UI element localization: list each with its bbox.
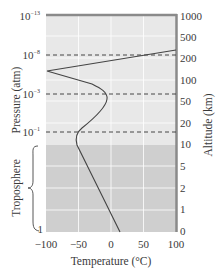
- svg-text:500: 500: [180, 31, 197, 43]
- svg-text:0: 0: [180, 225, 186, 237]
- pressure-label-1e-1: 10−1: [23, 126, 40, 138]
- svg-text:10: 10: [180, 138, 192, 150]
- svg-text:100: 100: [168, 238, 185, 250]
- x-axis-title: Temperature (°C): [71, 255, 152, 268]
- right-axis-title: Altitude (km): [202, 93, 215, 156]
- pressure-label-1e-3: 10−3: [23, 88, 40, 100]
- svg-text:1000: 1000: [180, 10, 203, 22]
- atmosphere-temperature-chart: 10−13 10−8 10−3 10−1 1 Pressure (atm) Tr…: [0, 0, 219, 275]
- pressure-label-1e-8: 10−8: [23, 49, 40, 61]
- svg-text:100: 100: [180, 74, 197, 86]
- troposphere-brace: [28, 146, 39, 231]
- pressure-label-1: 1: [38, 223, 44, 235]
- svg-text:50: 50: [138, 238, 150, 250]
- right-axis-labels: 1000 500 200 100 50 20 10 5 2 1 0: [180, 10, 203, 237]
- svg-text:200: 200: [180, 52, 197, 64]
- svg-text:50: 50: [180, 95, 192, 107]
- svg-text:5: 5: [180, 160, 186, 172]
- svg-text:2: 2: [180, 182, 186, 194]
- left-axis-title: Pressure (atm): [10, 66, 23, 133]
- svg-text:−100: −100: [35, 238, 58, 250]
- svg-text:−50: −50: [70, 238, 88, 250]
- pressure-label-1e-13: 10−13: [20, 10, 40, 22]
- svg-text:20: 20: [180, 117, 192, 129]
- left-axis-labels: 10−13 10−8 10−3 10−1 1: [20, 10, 43, 235]
- svg-text:0: 0: [108, 238, 114, 250]
- troposphere-label: Troposphere: [10, 159, 23, 217]
- svg-text:1: 1: [180, 203, 186, 215]
- x-axis-labels: −100 −50 0 50 100: [35, 238, 185, 250]
